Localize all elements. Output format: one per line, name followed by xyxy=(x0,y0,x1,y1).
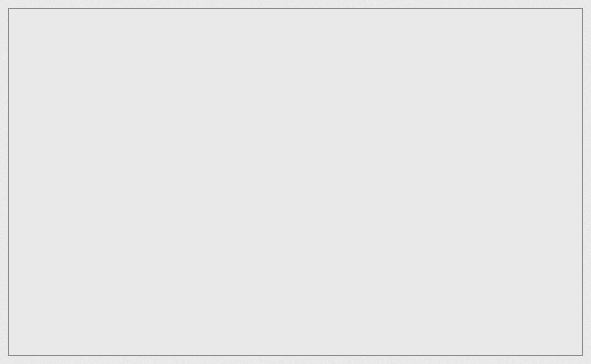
figure-container xyxy=(0,0,591,364)
isometric-bar-plot-canvas xyxy=(0,0,591,364)
